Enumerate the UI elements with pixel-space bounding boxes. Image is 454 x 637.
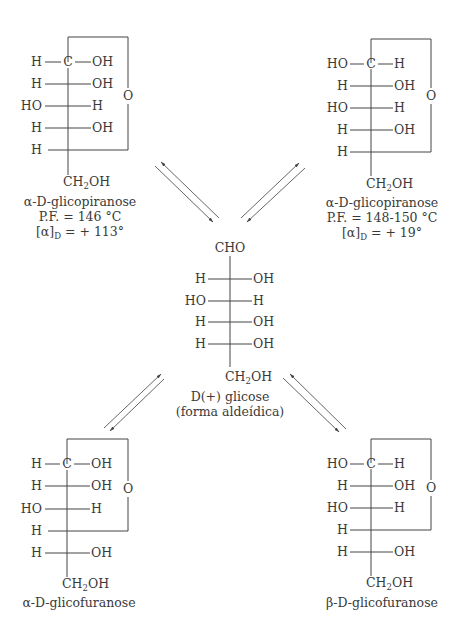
svg-text:H: H [31, 142, 42, 157]
svg-text:H: H [31, 523, 42, 538]
svg-text:H: H [91, 501, 102, 516]
svg-text:OH: OH [394, 478, 415, 493]
svg-text:OH: OH [91, 545, 112, 560]
svg-text:HO: HO [21, 501, 42, 516]
svg-text:H: H [31, 76, 42, 91]
svg-text:H: H [337, 144, 348, 159]
svg-text:OH: OH [92, 54, 113, 69]
structure-center-open-chain-glucose: CHO H OH HO H H OH H OH CH2OH D(+) glico… [176, 240, 284, 419]
svg-text:OH: OH [91, 478, 112, 493]
ring-oxygen: O [123, 481, 133, 496]
glucose-equilibrium-diagram: O H C OH H OH HO H H OH H CH2OH α-D-glic… [0, 0, 454, 637]
svg-text:H: H [31, 478, 42, 493]
compound-name: D(+) glicose [191, 389, 270, 404]
svg-text:OH: OH [253, 271, 274, 286]
arrow-backward-icon [247, 168, 305, 222]
structure-top-right-glucopyranose: O HO C H H OH HO H H OH H CH2OH α-D-glic… [326, 39, 438, 242]
svg-text:OH: OH [394, 122, 415, 137]
compound-name: α-D-glicofuranose [22, 595, 135, 610]
ch2oh-group: CH2OH [62, 576, 109, 593]
svg-text:HO: HO [185, 293, 206, 308]
svg-text:H: H [31, 545, 42, 560]
ring-bond [48, 497, 128, 531]
svg-text:OH: OH [394, 544, 415, 559]
ch2oh-group: CH2OH [63, 174, 110, 191]
structure-bottom-left-alpha-glucofuranose: O H C OH H OH HO H H H OH CH2OH α-D-glic… [21, 439, 136, 610]
structure-top-left-alpha-glucopyranose: O H C OH H OH HO H H OH H CH2OH α-D-glic… [21, 37, 136, 241]
svg-text:H: H [195, 271, 206, 286]
svg-text:H: H [394, 500, 405, 515]
svg-text:H: H [394, 456, 405, 471]
svg-text:OH: OH [92, 76, 113, 91]
svg-text:H: H [337, 544, 348, 559]
svg-text:HO: HO [327, 500, 348, 515]
arrow-backward-icon [290, 374, 346, 429]
ring-bond [350, 496, 431, 530]
ring-bond [350, 104, 431, 152]
svg-text:OH: OH [92, 120, 113, 135]
compound-name: α-D-glicopiranose [326, 195, 438, 210]
ch2oh-group: CH2OH [366, 575, 413, 592]
svg-text:H: H [337, 522, 348, 537]
ring-oxygen: O [123, 88, 133, 103]
arrow-forward-icon [104, 374, 161, 428]
svg-text:OH: OH [253, 314, 274, 329]
ch2oh-group: CH2OH [225, 369, 272, 386]
svg-text:OH: OH [91, 456, 112, 471]
melting-point: P.F. = 146 °C [39, 209, 122, 224]
melting-point: P.F. = 148-150 °C [327, 210, 438, 225]
compound-form: (forma aldeídica) [176, 404, 284, 419]
ring-oxygen: O [426, 480, 436, 495]
svg-text:H: H [394, 100, 405, 115]
svg-text:HO: HO [327, 56, 348, 71]
svg-text:C: C [63, 54, 73, 69]
equilibrium-arrow-bottom-left [104, 374, 164, 431]
arrow-forward-icon [155, 166, 213, 222]
svg-text:H: H [337, 78, 348, 93]
arrow-forward-icon [283, 378, 339, 432]
svg-text:H: H [195, 336, 206, 351]
arrow-backward-icon [110, 379, 164, 431]
structure-bottom-right-beta-glucofuranose: O HO C H H OH HO H H H OH CH2OH β-D-glic… [326, 439, 438, 610]
svg-text:H: H [253, 293, 264, 308]
arrow-forward-icon [241, 163, 299, 218]
svg-text:OH: OH [394, 78, 415, 93]
svg-text:OH: OH [253, 336, 274, 351]
svg-text:H: H [337, 478, 348, 493]
svg-text:C: C [62, 456, 72, 471]
equilibrium-arrow-top-right [241, 163, 305, 222]
compound-name: α-D-glicopiranose [24, 194, 136, 209]
arrow-backward-icon [161, 162, 219, 218]
svg-text:H: H [31, 456, 42, 471]
svg-text:HO: HO [327, 456, 348, 471]
svg-text:HO: HO [21, 98, 42, 113]
equilibrium-arrow-top-left [155, 162, 219, 222]
svg-text:C: C [366, 456, 376, 471]
optical-rotation: [α]D = + 19° [342, 225, 422, 242]
svg-text:C: C [366, 56, 376, 71]
compound-name: β-D-glicofuranose [326, 595, 438, 610]
ring-bond [48, 104, 128, 150]
svg-text:H: H [195, 314, 206, 329]
aldehyde-group: CHO [215, 240, 246, 255]
svg-text:H: H [31, 120, 42, 135]
svg-text:H: H [92, 98, 103, 113]
svg-text:H: H [394, 56, 405, 71]
svg-text:H: H [31, 54, 42, 69]
equilibrium-arrow-bottom-right [283, 374, 346, 432]
svg-text:H: H [337, 122, 348, 137]
ring-oxygen: O [426, 88, 436, 103]
svg-text:HO: HO [327, 100, 348, 115]
ch2oh-group: CH2OH [366, 176, 413, 193]
optical-rotation: [α]D = + 113° [36, 224, 124, 241]
